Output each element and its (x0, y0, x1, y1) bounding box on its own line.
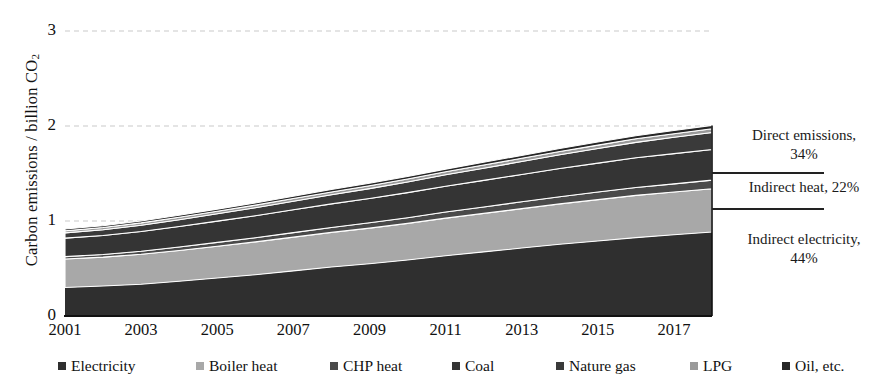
annotation-indirect-electricity-line1: Indirect electricity, (718, 230, 890, 249)
annotation-divider-indirect-electricity (712, 208, 824, 210)
legend-swatch-icon (556, 362, 564, 370)
legend-swatch-icon (196, 362, 204, 370)
legend-label: Coal (465, 357, 494, 375)
annotation-direct-line2: 34% (718, 145, 890, 164)
annotation-indirect-electricity-line2: 44% (718, 249, 890, 268)
legend-label: Oil, etc. (795, 357, 845, 375)
annotation-indirect-electricity: Indirect electricity,44% (718, 230, 890, 268)
legend-item-nature-gas[interactable]: Nature gas (556, 357, 636, 375)
annotation-indirect-heat-line1: Indirect heat, 22% (718, 178, 890, 197)
legend-label: LPG (703, 357, 732, 375)
legend-swatch-icon (690, 362, 698, 370)
annotation-divider-indirect-heat (712, 172, 824, 174)
annotation-direct: Direct emissions,34% (718, 126, 890, 164)
legend-item-oil-etc[interactable]: Oil, etc. (782, 357, 845, 375)
legend-item-boiler-heat[interactable]: Boiler heat (196, 357, 277, 375)
legend-item-chp-heat[interactable]: CHP heat (330, 357, 402, 375)
legend-label: Electricity (71, 357, 136, 375)
legend-swatch-icon (58, 362, 66, 370)
legend-label: CHP heat (343, 357, 402, 375)
legend-item-electricity[interactable]: Electricity (58, 357, 136, 375)
legend-item-lpg[interactable]: LPG (690, 357, 732, 375)
annotation-indirect-heat: Indirect heat, 22% (718, 178, 890, 197)
annotation-direct-line1: Direct emissions, (718, 126, 890, 145)
legend-item-coal[interactable]: Coal (452, 357, 494, 375)
legend-label: Nature gas (569, 357, 636, 375)
legend-swatch-icon (452, 362, 460, 370)
chart-legend: ElectricityBoiler heatCHP heatCoalNature… (0, 357, 892, 381)
carbon-emissions-area-chart: Carbon emissions / billion CO2 0123 2001… (0, 0, 892, 389)
legend-label: Boiler heat (209, 357, 277, 375)
legend-swatch-icon (330, 362, 338, 370)
legend-swatch-icon (782, 362, 790, 370)
